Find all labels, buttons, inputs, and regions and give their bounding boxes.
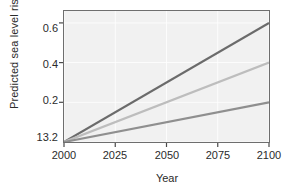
y-tick-label: 0.6 xyxy=(24,23,58,34)
x-tick-label: 2050 xyxy=(144,150,190,161)
y-tick-label: 0.2 xyxy=(24,95,58,106)
x-tick-marks xyxy=(64,143,269,147)
plot-panel xyxy=(63,10,270,143)
x-axis-tick-labels: 2000 2025 2050 2075 2100 xyxy=(0,150,287,166)
x-tick-label: 2100 xyxy=(246,150,287,161)
chart-figure: Predicted sea level rise (m) 0.6 0.4 0.2… xyxy=(0,0,287,194)
y-tick-label: 0.4 xyxy=(24,59,58,70)
x-axis-title: Year xyxy=(63,172,271,184)
plot-area xyxy=(64,11,269,142)
x-tick-label: 2000 xyxy=(41,150,87,161)
y-tick-label: 13.2 xyxy=(24,132,58,143)
x-tick-label: 2075 xyxy=(195,150,241,161)
x-tick-label: 2025 xyxy=(92,150,138,161)
y-axis-title: Predicted sea level rise (m) xyxy=(8,0,20,111)
